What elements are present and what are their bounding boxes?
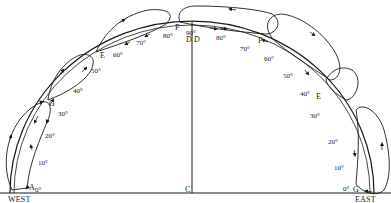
svg-text:50°: 50° — [91, 67, 101, 75]
east-label: EAST — [355, 195, 376, 203]
svg-text:80°: 80° — [163, 32, 173, 40]
loop-east-lower — [356, 107, 389, 194]
svg-text:30°: 30° — [58, 110, 68, 118]
west-point-e: E — [100, 51, 105, 60]
svg-text:80°: 80° — [216, 34, 226, 42]
east-point-g: G — [353, 185, 359, 194]
center-label: C — [185, 185, 190, 194]
svg-text:70°: 70° — [136, 39, 146, 47]
east-point-e: E — [316, 92, 321, 101]
east-point-f: F — [258, 36, 263, 45]
svg-text:60°: 60° — [113, 51, 123, 59]
svg-text:20°: 20° — [45, 132, 55, 140]
east-degree-labels: 80° 70° 60° 50° 40° 30° 20° 10° 0° — [216, 34, 350, 193]
west-point-f: F — [175, 23, 180, 32]
west-label: WEST — [8, 195, 31, 203]
svg-text:60°: 60° — [264, 55, 274, 63]
west-point-g: G — [49, 99, 55, 108]
svg-text:70°: 70° — [240, 45, 250, 53]
svg-text:50°: 50° — [283, 72, 293, 80]
svg-text:30°: 30° — [310, 112, 320, 120]
loop-west-lower — [6, 102, 50, 190]
svg-text:0°: 0° — [35, 186, 42, 194]
svg-text:90°: 90° — [186, 29, 196, 37]
west-degree-labels: 0° 10° 20° 30° 40° 50° 60° 70° 80° 90° — [35, 29, 196, 194]
svg-text:20°: 20° — [328, 138, 338, 146]
svg-text:10°: 10° — [334, 164, 344, 172]
loop-west-middle — [48, 54, 93, 100]
svg-text:40°: 40° — [300, 90, 310, 98]
arc-diagram: WEST EAST C D D A G E F F E G 0° 10° 20°… — [0, 0, 391, 203]
svg-text:0°: 0° — [343, 185, 350, 193]
svg-text:40°: 40° — [73, 87, 83, 95]
svg-text:10°: 10° — [38, 159, 48, 167]
